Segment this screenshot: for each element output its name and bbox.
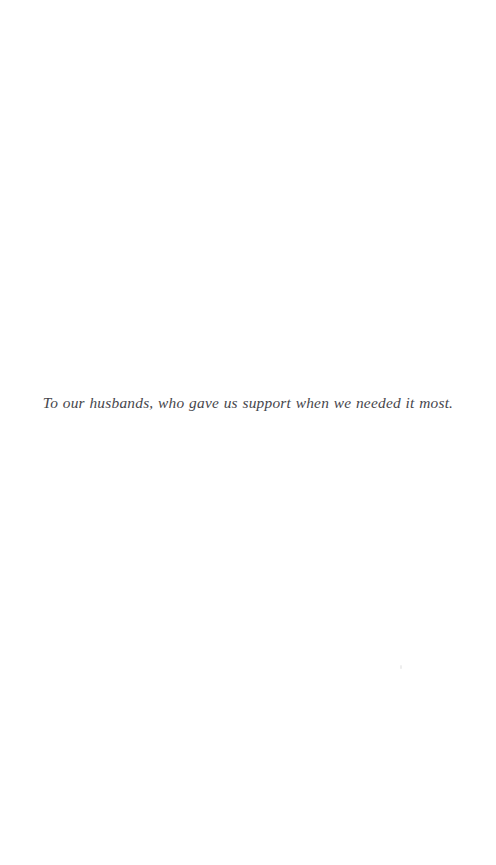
dedication-block: To our husbands, who gave us support whe… bbox=[0, 393, 496, 413]
book-page: To our husbands, who gave us support whe… bbox=[0, 0, 496, 865]
scan-speck-artifact bbox=[400, 665, 402, 669]
dedication-text: To our husbands, who gave us support whe… bbox=[43, 393, 453, 413]
